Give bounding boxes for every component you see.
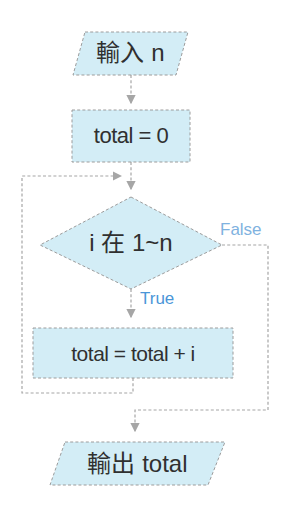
true-branch-label: True [140, 290, 174, 307]
input-node-label: 輸入 n [73, 30, 188, 75]
output-node-label: 輸出 total [50, 442, 225, 485]
init-node-label: total = 0 [72, 110, 190, 162]
flowchart-canvas: 輸入 n total = 0 i 在 1~n total = total + i… [0, 0, 293, 508]
condition-node-label: i 在 1~n [40, 197, 222, 288]
false-branch-label: False [220, 221, 262, 238]
accumulate-node-label: total = total + i [33, 328, 233, 378]
